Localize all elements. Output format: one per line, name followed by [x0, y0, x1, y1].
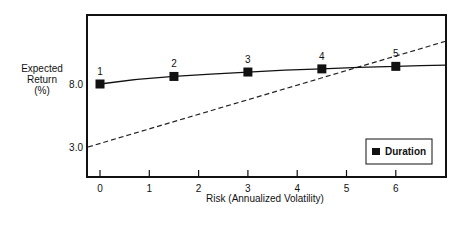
- duration-marker-4: [317, 64, 326, 73]
- x-tick-label-0: 0: [97, 183, 103, 194]
- y-axis-title-line-3: (%): [34, 85, 50, 96]
- duration-marker-5: [391, 62, 400, 71]
- y-tick-label-3.0: 3.0: [69, 142, 83, 153]
- x-tick-label-5: 5: [344, 183, 350, 194]
- point-label-2: 2: [171, 58, 177, 69]
- chart: 01234568.03.0Risk (Annualized Volatility…: [0, 0, 466, 227]
- legend-marker-duration: [372, 148, 380, 155]
- y-axis-title-line-1: Expected: [21, 63, 63, 74]
- point-label-5: 5: [393, 48, 399, 59]
- x-tick-label-1: 1: [147, 183, 153, 194]
- x-tick-label-6: 6: [393, 183, 399, 194]
- point-label-1: 1: [97, 66, 103, 77]
- x-tick-label-2: 2: [196, 183, 202, 194]
- x-axis-title: Risk (Annualized Volatility): [206, 193, 324, 204]
- duration-marker-2: [169, 72, 178, 81]
- point-label-3: 3: [245, 54, 251, 65]
- duration-marker-1: [96, 80, 105, 89]
- duration-marker-3: [243, 68, 252, 77]
- point-label-4: 4: [319, 51, 325, 62]
- y-tick-label-8.0: 8.0: [69, 79, 83, 90]
- legend-label-duration: Duration: [385, 146, 426, 157]
- y-axis-title-line-2: Return: [27, 74, 57, 85]
